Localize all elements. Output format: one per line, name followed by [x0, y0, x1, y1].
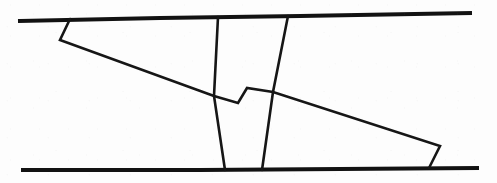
- interior-lines: [60, 16, 440, 170]
- bottom-boundary-line: [23, 168, 477, 170]
- left-notch-and-long-diagonal: [60, 19, 440, 168]
- line-diagram-svg: [0, 0, 497, 183]
- left-interior-vertical: [214, 17, 225, 170]
- figure-root: [0, 0, 497, 183]
- top-boundary-line: [20, 13, 470, 21]
- boundary-lines: [20, 13, 477, 170]
